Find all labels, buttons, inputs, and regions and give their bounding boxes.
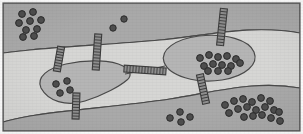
dot-cluster-lower-right-dot <box>276 109 283 116</box>
dot-cluster-lower-right-dot <box>235 106 242 113</box>
dot-cluster-right-patch-dot <box>210 61 217 68</box>
dot-cluster-lower-right-dot <box>262 104 269 111</box>
dot-cluster-left-patch-dot <box>67 87 74 94</box>
crossing-structure-3-body <box>72 93 80 119</box>
dot-cluster-upper-left-dot <box>16 20 23 27</box>
dot-cluster-lower-right-dot <box>241 114 248 121</box>
dot-cluster-lower-right-dot <box>226 110 233 117</box>
dot-cluster-lower-right-dot <box>240 96 247 103</box>
dot-cluster-lower-right-dot <box>277 118 284 125</box>
dot-cluster-right-patch-dot <box>219 62 226 69</box>
dot-cluster-lower-right-dot <box>267 98 274 105</box>
dot-cluster-lower-right-dot <box>259 112 266 119</box>
dot-cluster-right-patch-dot <box>225 68 232 75</box>
dot-cluster-upper-left-dot <box>19 11 26 18</box>
dot-cluster-upper-left-dot <box>38 17 45 24</box>
dot-cluster-lower-right-dot <box>231 98 238 105</box>
dot-cluster-lower-center-dot <box>187 114 194 121</box>
dot-cluster-lower-center-dot <box>177 109 184 116</box>
dot-cluster-upper-left-dot <box>20 34 27 41</box>
dot-cluster-lower-right-dot <box>258 95 265 102</box>
dot-cluster-lower-right-dot <box>222 102 229 109</box>
dot-pair-upper-center-dot <box>110 25 116 31</box>
scene-content <box>3 3 300 131</box>
dot-cluster-right-patch-dot <box>224 53 231 60</box>
figure-canvas <box>0 0 303 134</box>
dot-cluster-lower-right-dot <box>250 113 257 120</box>
dot-cluster-right-patch-dot <box>197 55 204 62</box>
dot-cluster-lower-right-dot <box>244 104 251 111</box>
dot-cluster-lower-center-dot <box>178 119 185 126</box>
dot-cluster-left-patch-dot <box>64 78 71 85</box>
dot-cluster-left-patch-dot <box>57 90 64 97</box>
dot-cluster-lower-right-dot <box>268 115 275 122</box>
dot-pair-upper-center-dot <box>121 16 127 22</box>
dot-cluster-lower-center-dot <box>167 115 174 122</box>
dot-cluster-left-patch-dot <box>53 81 60 88</box>
dot-cluster-upper-left-dot <box>30 9 37 16</box>
dot-cluster-right-patch-dot <box>215 68 222 75</box>
crossing-structure-3 <box>72 93 80 119</box>
dot-cluster-upper-left-dot <box>31 33 38 40</box>
landscape-corridor-figure <box>0 0 303 134</box>
dot-cluster-right-patch-dot <box>206 52 213 59</box>
dot-cluster-right-patch-dot <box>215 54 222 61</box>
dot-cluster-upper-left-dot <box>23 27 30 34</box>
dot-cluster-upper-left-dot <box>27 18 34 25</box>
dot-cluster-right-patch-dot <box>237 60 244 67</box>
dot-cluster-right-patch-dot <box>205 68 212 75</box>
dot-cluster-upper-left-dot <box>34 26 41 33</box>
